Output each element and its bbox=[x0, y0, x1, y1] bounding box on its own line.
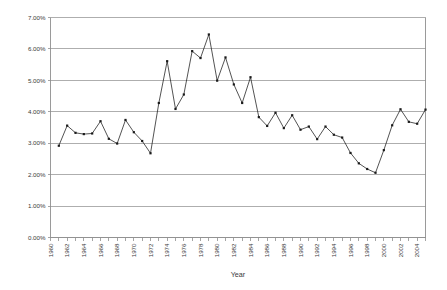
data-point-marker bbox=[116, 142, 118, 144]
data-point-marker bbox=[183, 93, 185, 95]
data-point-marker bbox=[241, 102, 243, 104]
x-axis-title: Year bbox=[231, 270, 246, 279]
data-point-marker bbox=[66, 125, 68, 127]
data-point-marker bbox=[191, 50, 193, 52]
y-axis-tick-label: 5.00% bbox=[28, 77, 46, 84]
y-axis-tick-label: 7.00% bbox=[28, 14, 46, 21]
x-axis-tick-label: 2000 bbox=[380, 243, 387, 257]
y-axis-tick-label: 6.00% bbox=[28, 45, 46, 52]
x-axis-tick-label: 1966 bbox=[97, 243, 104, 257]
chart-container: 0.00%1.00%2.00%3.00%4.00%5.00%6.00%7.00%… bbox=[0, 0, 447, 290]
x-axis-tick-label: 2004 bbox=[413, 243, 420, 257]
data-point-marker bbox=[258, 116, 260, 118]
data-point-marker bbox=[358, 162, 360, 164]
data-point-marker bbox=[208, 33, 210, 35]
data-point-marker bbox=[316, 138, 318, 140]
x-axis-tick-label: 1964 bbox=[80, 243, 87, 257]
x-axis-tick-label: 1978 bbox=[197, 243, 204, 257]
x-axis-tick-label: 1990 bbox=[297, 243, 304, 257]
data-point-marker bbox=[341, 136, 343, 138]
data-point-marker bbox=[249, 76, 251, 78]
x-axis-tick-label: 1962 bbox=[63, 243, 70, 257]
data-point-marker bbox=[408, 121, 410, 123]
data-point-marker bbox=[308, 125, 310, 127]
y-axis-tick-label: 3.00% bbox=[28, 139, 46, 146]
y-axis-tick-label: 0.00% bbox=[28, 234, 46, 241]
data-point-marker bbox=[108, 138, 110, 140]
x-axis-tick-label: 1986 bbox=[263, 243, 270, 257]
data-point-marker bbox=[266, 125, 268, 127]
data-point-marker bbox=[399, 108, 401, 110]
x-axis-tick-label: 1992 bbox=[313, 243, 320, 257]
x-axis-tick-label: 1974 bbox=[163, 243, 170, 257]
data-point-marker bbox=[224, 56, 226, 58]
x-axis-tick-label: 1970 bbox=[130, 243, 137, 257]
data-point-marker bbox=[383, 149, 385, 151]
y-axis-tick-label: 1.00% bbox=[28, 202, 46, 209]
data-point-marker bbox=[174, 108, 176, 110]
data-point-marker bbox=[149, 152, 151, 154]
data-point-marker bbox=[391, 124, 393, 126]
data-point-marker bbox=[324, 125, 326, 127]
data-point-marker bbox=[74, 132, 76, 134]
data-point-marker bbox=[166, 60, 168, 62]
data-point-marker bbox=[299, 129, 301, 131]
data-point-marker bbox=[274, 112, 276, 114]
x-axis-tick-label: 1982 bbox=[230, 243, 237, 257]
data-point-marker bbox=[216, 80, 218, 82]
data-point-marker bbox=[199, 57, 201, 59]
data-point-marker bbox=[91, 132, 93, 134]
x-axis-tick-label: 1960 bbox=[47, 243, 54, 257]
x-axis-tick-labels: 1960196219641966196819701972197419761978… bbox=[47, 243, 421, 257]
x-axis-tick-label: 1976 bbox=[180, 243, 187, 257]
data-point-marker bbox=[416, 123, 418, 125]
data-point-marker bbox=[124, 119, 126, 121]
data-point-marker bbox=[291, 114, 293, 116]
x-axis-tick-label: 1972 bbox=[147, 243, 154, 257]
x-axis-tick-label: 1984 bbox=[247, 243, 254, 257]
data-point-marker bbox=[374, 172, 376, 174]
data-point-marker bbox=[349, 152, 351, 154]
line-chart: 0.00%1.00%2.00%3.00%4.00%5.00%6.00%7.00%… bbox=[0, 0, 447, 290]
data-point-marker bbox=[99, 120, 101, 122]
data-point-marker bbox=[133, 131, 135, 133]
y-axis-tick-label: 2.00% bbox=[28, 171, 46, 178]
data-point-marker bbox=[158, 102, 160, 104]
data-point-marker bbox=[424, 108, 426, 110]
x-axis-title-label: Year bbox=[231, 270, 246, 279]
data-point-marker bbox=[83, 133, 85, 135]
x-axis-tick-label: 1998 bbox=[363, 243, 370, 257]
x-axis-tick-label: 1980 bbox=[213, 243, 220, 257]
x-axis-tick-label: 1968 bbox=[113, 243, 120, 257]
x-axis-tick-label: 1994 bbox=[330, 243, 337, 257]
data-point-marker bbox=[141, 140, 143, 142]
x-axis-tick-label: 2002 bbox=[397, 243, 404, 257]
data-point-marker bbox=[233, 83, 235, 85]
data-point-marker bbox=[333, 134, 335, 136]
data-point-marker bbox=[366, 168, 368, 170]
y-axis-tick-label: 4.00% bbox=[28, 108, 46, 115]
x-axis-tick-label: 1988 bbox=[280, 243, 287, 257]
data-point-marker bbox=[283, 127, 285, 129]
data-point-marker bbox=[58, 145, 60, 147]
x-axis-tick-label: 1996 bbox=[347, 243, 354, 257]
